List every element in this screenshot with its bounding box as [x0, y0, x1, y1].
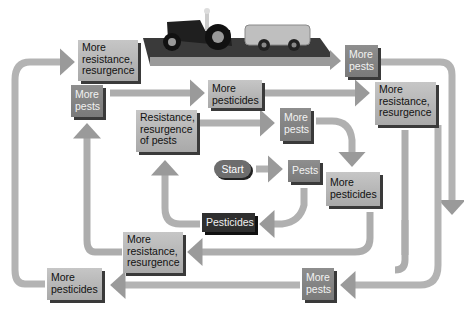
box-line: More [330, 177, 376, 189]
second-more-resistance-box: More resistance, resurgence [123, 232, 183, 273]
box-line: resurgence [82, 65, 134, 77]
outer-more-pesticides-box: More pesticides [47, 268, 102, 300]
pesticides-label: Pesticides [206, 215, 251, 230]
tractor-illustration [143, 8, 341, 70]
box-line: pests [306, 284, 330, 296]
diagram-canvas: More resistance, resurgence More pests M… [0, 0, 464, 310]
box-line: pests [349, 61, 374, 73]
center-more-pesticides-box: More pesticides [326, 172, 380, 206]
box-line: of pests [140, 135, 193, 147]
outer-more-pests-box: More pests [345, 45, 378, 77]
pests-box: Pests [288, 160, 320, 182]
box-line: More [349, 49, 374, 61]
box-line: pests [284, 124, 307, 136]
resistance-resurgence-box: Resistance, resurgence of pests [136, 110, 197, 152]
start-label: Start [218, 162, 247, 176]
third-more-resistance-box: More resistance, resurgence [375, 82, 436, 125]
start-node: Start [214, 160, 251, 178]
outer-more-resistance-box: More resistance, resurgence [78, 40, 138, 81]
pesticides-box: Pesticides [202, 213, 255, 232]
third-more-pests-box: More pests [71, 85, 103, 117]
second-more-pesticides-box: More pesticides [208, 80, 262, 108]
box-line: More [379, 84, 432, 96]
pests-label: Pests [292, 162, 316, 178]
box-line: More [82, 42, 134, 54]
box-line: resurgence [127, 257, 179, 269]
box-line: More [284, 112, 307, 124]
box-line: Resistance, [140, 112, 193, 124]
arrows-layer [0, 0, 464, 310]
box-line: More [212, 83, 258, 95]
box-line: pesticides [212, 95, 258, 107]
box-line: More [127, 234, 179, 246]
box-line: resurgence [379, 107, 432, 119]
box-line: pests [75, 101, 99, 113]
box-line: More [306, 272, 330, 284]
box-line: pesticides [330, 189, 376, 201]
box-line: More [51, 272, 98, 284]
box-line: More [75, 89, 99, 101]
third-more-pests-bottom-box: More pests [302, 268, 334, 300]
box-line: pesticides [51, 284, 98, 296]
second-more-pests-box: More pests [280, 108, 311, 141]
